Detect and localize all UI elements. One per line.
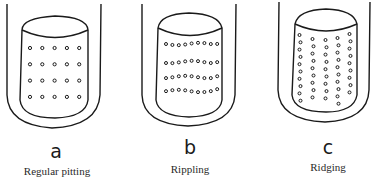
panel-c-caption: Ridging bbox=[310, 162, 345, 173]
panel-b-caption: Rippling bbox=[171, 164, 210, 175]
panel-c-letter: c bbox=[323, 138, 333, 157]
panel-a-caption: Regular pitting bbox=[24, 166, 90, 177]
pits-a bbox=[28, 46, 80, 98]
finger-b bbox=[142, 4, 236, 126]
pits-c bbox=[298, 33, 352, 106]
finger-c bbox=[278, 2, 370, 122]
panel-a-letter: a bbox=[50, 142, 62, 161]
pits-b bbox=[165, 41, 219, 93]
panel-b-letter: b bbox=[184, 138, 196, 157]
